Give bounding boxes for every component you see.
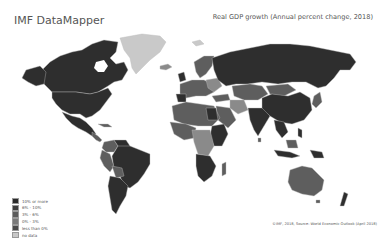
region-uk[interactable] — [178, 72, 186, 82]
source-credit: ©IMF, 2018, Source: World Economic Outlo… — [272, 222, 377, 226]
region-svalbard[interactable] — [192, 40, 204, 46]
legend-swatch — [12, 225, 19, 232]
legend: 10% or more 6% - 10% 3% - 6% 0% - 3% les… — [12, 198, 48, 239]
legend-label: 6% - 10% — [22, 205, 41, 210]
region-cuba[interactable] — [98, 124, 112, 127]
region-china[interactable] — [262, 92, 312, 124]
legend-item[interactable]: 3% - 6% — [12, 212, 48, 218]
region-tasmania[interactable] — [316, 200, 320, 203]
legend-label: less than 0% — [22, 226, 48, 231]
legend-item[interactable]: no data — [12, 232, 48, 238]
world-map[interactable] — [0, 0, 389, 247]
legend-item[interactable]: 10% or more — [12, 198, 48, 204]
region-southern-africa[interactable] — [196, 154, 216, 182]
legend-label: 10% or more — [22, 199, 48, 204]
region-new-zealand[interactable] — [340, 192, 348, 206]
region-iberia[interactable] — [176, 94, 186, 102]
region-canada[interactable] — [40, 40, 128, 94]
region-japan[interactable] — [312, 92, 322, 108]
region-central-america[interactable] — [92, 132, 102, 142]
map-title: Real GDP growth (Annual percent change, … — [213, 13, 373, 21]
legend-swatch — [12, 211, 19, 218]
region-mongolia[interactable] — [266, 84, 296, 96]
legend-swatch — [12, 218, 19, 225]
legend-label: 3% - 6% — [22, 212, 39, 217]
legend-item[interactable]: less than 0% — [12, 225, 48, 231]
region-sri-lanka[interactable] — [258, 138, 261, 142]
region-peru[interactable] — [100, 150, 114, 172]
legend-label: 0% - 3% — [22, 219, 39, 224]
region-indonesia[interactable] — [274, 150, 300, 158]
region-egypt[interactable] — [206, 108, 218, 120]
region-alaska[interactable] — [22, 66, 46, 86]
region-philippines[interactable] — [298, 128, 302, 138]
region-iceland[interactable] — [160, 64, 172, 70]
region-turkey[interactable] — [212, 94, 230, 102]
region-madagascar[interactable] — [222, 162, 226, 176]
region-central-africa[interactable] — [192, 130, 214, 156]
region-papua-new-guinea[interactable] — [310, 150, 324, 158]
legend-item[interactable]: 6% - 10% — [12, 205, 48, 211]
region-borneo[interactable] — [286, 140, 298, 148]
region-iran[interactable] — [230, 100, 248, 114]
legend-swatch — [12, 205, 19, 212]
legend-swatch — [12, 232, 19, 239]
legend-swatch — [12, 198, 19, 205]
app-title: IMF DataMapper — [14, 14, 104, 27]
legend-item[interactable]: 0% - 3% — [12, 218, 48, 224]
legend-label: no data — [22, 233, 37, 238]
region-scandinavia[interactable] — [194, 56, 214, 78]
region-australia[interactable] — [288, 166, 324, 196]
region-russia[interactable] — [212, 44, 356, 88]
